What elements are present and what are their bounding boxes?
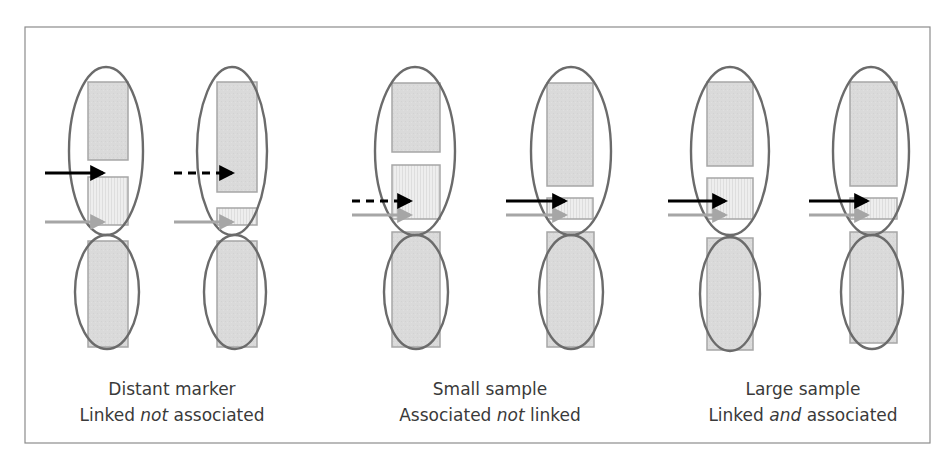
caption-subtitle-emphasis: not bbox=[140, 405, 168, 425]
caption-subtitle-post: associated bbox=[801, 405, 897, 425]
caption-subtitle-pre: Associated bbox=[399, 405, 497, 425]
caption-subtitle-pre: Linked bbox=[79, 405, 140, 425]
caption-title: Distant marker bbox=[22, 376, 322, 402]
caption-subtitle-emphasis: and bbox=[769, 405, 801, 425]
lower-segment-block bbox=[547, 232, 594, 347]
upper-segment-block bbox=[392, 83, 440, 152]
caption-large-sample: Large sample Linked and associated bbox=[653, 376, 950, 428]
caption-subtitle-post: associated bbox=[168, 405, 264, 425]
caption-subtitle-post: linked bbox=[525, 405, 581, 425]
caption-subtitle: Linked not associated bbox=[22, 402, 322, 428]
marker-segment-block bbox=[88, 177, 128, 225]
marker-segment-block bbox=[707, 178, 753, 219]
lower-segment-block bbox=[392, 232, 440, 347]
upper-segment-block bbox=[217, 82, 257, 192]
caption-small-sample: Small sample Associated not linked bbox=[340, 376, 640, 428]
upper-segment-block bbox=[547, 83, 593, 186]
marker-segment-block bbox=[392, 165, 440, 219]
caption-distant-marker: Distant marker Linked not associated bbox=[22, 376, 322, 428]
lower-segment-block bbox=[217, 241, 257, 347]
caption-subtitle-pre: Linked bbox=[708, 405, 769, 425]
lower-segment-block bbox=[850, 232, 897, 343]
lower-segment-block bbox=[88, 241, 128, 347]
caption-title: Small sample bbox=[340, 376, 640, 402]
upper-segment-block bbox=[850, 82, 897, 186]
upper-segment-block bbox=[88, 82, 128, 160]
caption-subtitle-emphasis: not bbox=[497, 405, 525, 425]
lower-segment-block bbox=[707, 238, 753, 350]
caption-subtitle: Linked and associated bbox=[653, 402, 950, 428]
caption-subtitle: Associated not linked bbox=[340, 402, 640, 428]
upper-segment-block bbox=[707, 82, 753, 166]
caption-title: Large sample bbox=[653, 376, 950, 402]
